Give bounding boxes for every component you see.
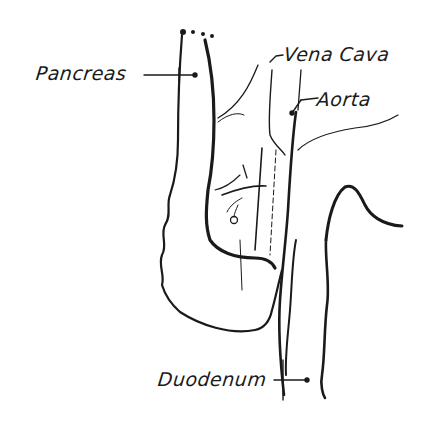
label-duodenum: Duodenum [157, 368, 268, 390]
label-pancreas: Pancreas [35, 62, 128, 84]
label-vena-cava: Vena Cava [283, 43, 391, 65]
leader-lines [144, 55, 318, 400]
anatomy-diagram: Pancreas Vena Cava Aorta Duodenum [0, 0, 426, 423]
duodenum-outline [326, 186, 402, 240]
pancreas-outline-inner [205, 40, 275, 268]
label-aorta: Aorta [316, 88, 372, 110]
vena-cava-vessel-left [255, 148, 262, 250]
vena-cava-vessel [269, 70, 285, 155]
